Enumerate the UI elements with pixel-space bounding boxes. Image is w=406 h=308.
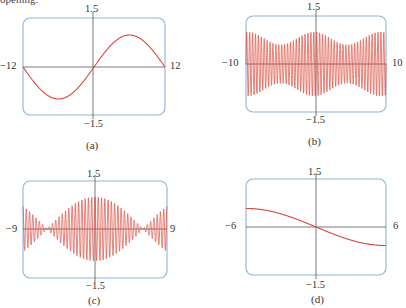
tick-right-d: 6 [393,220,398,231]
tick-bottom-d: −1.5 [306,279,325,290]
caption-d: (d) [311,293,324,305]
tick-left-d: −6 [225,220,236,231]
plot-d [0,0,406,308]
tick-top-d: 1.5 [308,166,321,177]
